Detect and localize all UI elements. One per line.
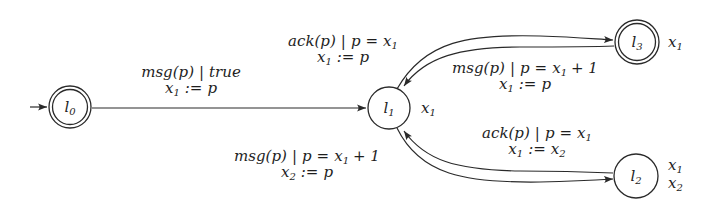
node-l3-var-x1: x1 (668, 33, 683, 52)
node-l2-var-x1: x1 (668, 156, 683, 175)
node-l2: l2 x1 x2 (614, 154, 683, 198)
label-top-left-update: x1:=p (317, 48, 369, 67)
label-bottom-left: msg(p)|p=x1+ 1 x2:=p (234, 147, 380, 182)
label-top-left: ack(p)|p=x1 x1:=p (288, 32, 398, 67)
node-l1-var-x1: x1 (421, 99, 436, 118)
node-l3: l3 x1 (615, 20, 683, 64)
label-l0-l1: msg(p)|true x1:=p (141, 63, 241, 98)
label-top-right: msg(p)|p=x1+ 1 x1:=p (452, 59, 598, 94)
label-bottom-right-update: x1:=x2 (508, 140, 565, 159)
node-l2-var-x2: x2 (668, 174, 683, 193)
label-bottom-right: ack(p)|p=x1 x1:=x2 (482, 124, 592, 159)
automaton-diagram: l0 l1 x1 l3 x1 l2 x1 x2 msg(p)|true x1:=… (0, 0, 724, 211)
label-top-right-update: x1:=p (499, 75, 551, 94)
label-l0-l1-update: x1:=p (165, 79, 217, 98)
node-l0: l0 (49, 86, 91, 128)
node-l1: l1 x1 (368, 87, 436, 129)
label-bottom-left-update: x2:=p (281, 163, 333, 182)
